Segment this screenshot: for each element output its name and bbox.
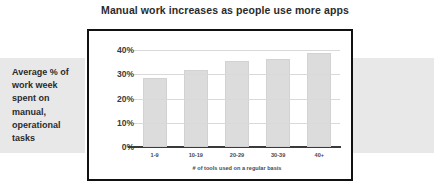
chart-title: Manual work increases as people use more… [85, 4, 365, 16]
bar[interactable] [307, 53, 331, 147]
gridline [134, 123, 340, 124]
x-axis-tick-label: 1-9 [151, 152, 159, 158]
right-background-band [352, 58, 434, 153]
bar[interactable] [184, 70, 208, 147]
bar-slot: 20-29 [216, 43, 257, 147]
x-axis-label: # of tools used on a regular basis [134, 165, 340, 171]
bar[interactable] [266, 59, 290, 147]
chart-caption: Average % of work week spent on manual, … [12, 66, 80, 145]
gridline [134, 74, 340, 75]
x-axis-tick-label: 30-39 [271, 152, 285, 158]
y-axis-tick-label: 0% [100, 142, 134, 152]
bar[interactable] [143, 78, 167, 147]
gridline [134, 50, 340, 51]
figure-container: Manual work increases as people use more… [0, 0, 434, 194]
chart-frame: 1-910-1920-2930-3940+ 0%10%20%30%40% # o… [87, 29, 353, 181]
bar-slot: 40+ [299, 43, 340, 147]
plot-wrapper: 1-910-1920-2930-3940+ 0%10%20%30%40% # o… [89, 31, 351, 179]
y-axis-tick-label: 40% [100, 45, 134, 55]
plot-area: 1-910-1920-2930-3940+ 0%10%20%30%40% [134, 43, 340, 147]
y-axis-tick-label: 30% [100, 69, 134, 79]
x-axis-tick-label: 40+ [315, 152, 325, 158]
x-axis-tick-label: 20-29 [230, 152, 244, 158]
bar-group: 1-910-1920-2930-3940+ [134, 43, 340, 147]
bar-slot: 1-9 [134, 43, 175, 147]
bar-slot: 10-19 [175, 43, 216, 147]
gridline [134, 99, 340, 100]
bar-slot: 30-39 [258, 43, 299, 147]
y-axis-tick-label: 20% [100, 94, 134, 104]
x-axis-tick-label: 10-19 [189, 152, 203, 158]
y-axis-tick-label: 10% [100, 118, 134, 128]
